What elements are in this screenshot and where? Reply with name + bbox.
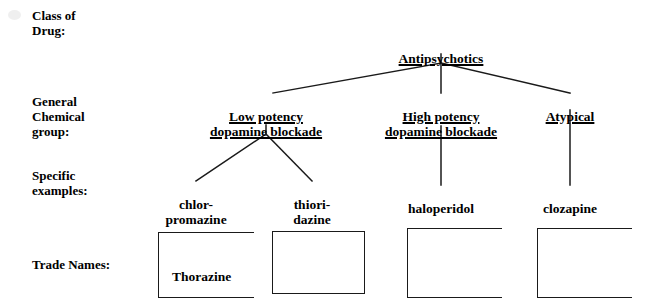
node-clozapine: clozapine	[520, 186, 620, 216]
node-atypical: Atypical	[520, 94, 620, 124]
edge-low-potency-to-thioridazine	[266, 134, 312, 181]
row-label-class-of-drug: Class of Drug:	[32, 8, 76, 38]
edge-root-to-atypical	[441, 63, 570, 93]
trade-box-chlorpromazine-label: Thorazine	[172, 269, 231, 284]
trade-box-haloperidol	[407, 228, 502, 298]
row-label-trade-names: Trade Names:	[32, 257, 110, 272]
trade-box-chlorpromazine	[158, 232, 254, 298]
trade-box-clozapine	[537, 228, 632, 298]
edge-low-potency-to-chlorpromazine	[196, 134, 266, 181]
node-thioridazine: thiori- dazine	[262, 182, 362, 227]
antipsychotics-classification-diagram: Class of Drug: General Chemical group: S…	[0, 0, 646, 299]
scan-artifact	[8, 10, 21, 20]
node-low-potency: Low potency dopamine blockade	[186, 94, 346, 139]
node-antipsychotics: Antipsychotics	[371, 36, 511, 66]
row-label-specific-examples: Specific examples:	[32, 168, 88, 198]
node-chlorpromazine: chlor- promazine	[146, 182, 246, 227]
trade-box-thioridazine	[272, 231, 365, 294]
edge-root-to-low-potency	[273, 63, 441, 93]
row-label-general-chemical-group: General Chemical group:	[32, 94, 85, 139]
node-haloperidol: haloperidol	[386, 186, 496, 216]
node-high-potency: High potency dopamine blockade	[361, 94, 521, 139]
